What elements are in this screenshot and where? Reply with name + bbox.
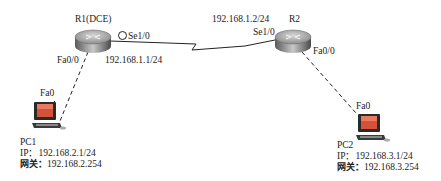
pc1-ip-row: IP：192.168.2.1/24 [20, 148, 102, 159]
pc2-ip-value: 192.168.3.1/24 [355, 151, 412, 161]
pc1-ip-value: 192.168.2.1/24 [38, 148, 95, 158]
r2-name-label: R2 [289, 14, 300, 25]
r2-serial-ip-label: 192.168.1.2/24 [212, 14, 269, 25]
pc1-name-label: PC1 [20, 137, 102, 148]
router-icon [274, 28, 312, 54]
r2-serial-port-label: Se1/0 [253, 27, 275, 38]
r2-fa-port-label: Fa0/0 [313, 46, 335, 57]
pc2-ip-row: IP：192.168.3.1/24 [337, 151, 419, 162]
r1-name-label: R1(DCE) [75, 14, 111, 25]
router-r1[interactable] [74, 28, 112, 58]
pc2-port-label: Fa0 [356, 101, 370, 112]
pc2-gw-row: 网关：192.168.3.254 [337, 162, 419, 173]
ethernet-link-r2-pc2 [302, 52, 356, 113]
pc2-gw-value: 192.168.3.254 [364, 162, 419, 172]
pc1-port-label: Fa0 [40, 88, 54, 99]
pc2-name-label: PC2 [337, 140, 419, 151]
pc1-gw-value: 192.168.2.254 [47, 159, 102, 169]
clock-icon [118, 31, 127, 40]
router-r2[interactable] [274, 28, 312, 58]
r1-fa-port-label: Fa0/0 [57, 55, 79, 66]
pc1[interactable] [32, 101, 66, 137]
router-icon [74, 28, 112, 54]
pc1-info: PC1 IP：192.168.2.1/24 网关：192.168.2.254 [20, 137, 102, 170]
r1-serial-ip-label: 192.168.1.1/24 [105, 55, 162, 66]
pc-icon [32, 101, 66, 133]
r1-serial-port-label: Se1/0 [118, 30, 150, 42]
pc2-info: PC2 IP：192.168.3.1/24 网关：192.168.3.254 [337, 140, 419, 173]
pc1-gw-row: 网关：192.168.2.254 [20, 159, 102, 170]
